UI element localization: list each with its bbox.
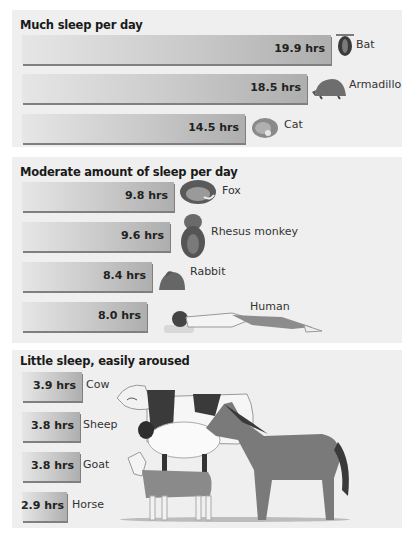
panel-moderate-sleep: Moderate amount of sleep per day 9.8 hrs… — [12, 157, 402, 343]
label-human: Human — [250, 300, 290, 313]
label-cat: Cat — [284, 118, 303, 131]
bar-value: 3.8 hrs — [31, 419, 74, 432]
bar-value: 3.9 hrs — [33, 379, 76, 392]
label-sheep: Sheep — [83, 418, 117, 431]
bar-value: 3.8 hrs — [31, 459, 74, 472]
horse-icon — [202, 400, 354, 525]
label-bat: Bat — [356, 38, 375, 51]
bar-value: 8.0 hrs — [98, 309, 141, 322]
bar-armadillo: 18.5 hrs — [22, 74, 307, 103]
bar-value: 14.5 hrs — [188, 121, 239, 134]
bar-value: 8.4 hrs — [103, 269, 146, 282]
bar-fox: 9.8 hrs — [22, 182, 174, 211]
label-rabbit: Rabbit — [190, 265, 225, 278]
bar-rabbit: 8.4 hrs — [22, 262, 152, 291]
bat-icon — [334, 32, 356, 58]
bar-value: 2.9 hrs — [21, 499, 64, 512]
bar-bat: 19.9 hrs — [22, 35, 331, 64]
bar-value: 9.8 hrs — [125, 189, 168, 202]
bar-goat: 3.8 hrs — [22, 452, 80, 481]
panel-little-sleep: Little sleep, easily aroused 3.9 hrs Cow… — [12, 350, 402, 528]
cat-icon — [250, 115, 280, 141]
human-icon — [162, 305, 324, 335]
label-goat: Goat — [83, 458, 109, 471]
bar-value: 18.5 hrs — [250, 81, 301, 94]
bar-human: 8.0 hrs — [22, 302, 147, 331]
rabbit-icon — [157, 269, 187, 291]
bar-value: 9.6 hrs — [121, 229, 164, 242]
monkey-icon — [179, 212, 207, 262]
bar-cow: 3.9 hrs — [22, 372, 82, 401]
bar-value: 19.9 hrs — [274, 42, 325, 55]
bar-rhesus-monkey: 9.6 hrs — [22, 222, 170, 251]
label-rhesus-monkey: Rhesus monkey — [211, 225, 298, 238]
armadillo-icon — [312, 76, 348, 100]
label-horse: Horse — [72, 498, 104, 511]
bar-horse: 2.9 hrs — [22, 492, 67, 521]
label-cow: Cow — [86, 378, 109, 391]
bar-sheep: 3.8 hrs — [22, 412, 80, 441]
section-title: Little sleep, easily aroused — [20, 354, 190, 368]
label-armadillo: Armadillo — [349, 78, 401, 91]
bar-cat: 14.5 hrs — [22, 114, 245, 143]
label-fox: Fox — [222, 184, 241, 197]
section-title: Much sleep per day — [20, 18, 143, 32]
fox-icon — [178, 177, 218, 207]
panel-much-sleep: Much sleep per day 19.9 hrs Bat 18.5 hrs… — [12, 10, 402, 147]
